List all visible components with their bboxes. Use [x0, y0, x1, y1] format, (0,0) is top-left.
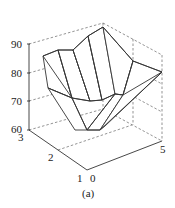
y-tick-1: 1 — [77, 173, 83, 184]
surface-mesh — [43, 27, 162, 130]
y-tick-2: 2 — [48, 152, 54, 163]
y-tick-3: 3 — [18, 132, 24, 143]
z-tick-80: 80 — [11, 68, 22, 79]
x-tick-0: 0 — [90, 173, 96, 184]
z-tick-70: 70 — [11, 96, 22, 107]
z-tick-90: 90 — [11, 39, 22, 50]
x-tick-5: 5 — [160, 144, 166, 155]
surface-plot — [0, 0, 175, 208]
figure-caption: (a) — [82, 188, 94, 199]
